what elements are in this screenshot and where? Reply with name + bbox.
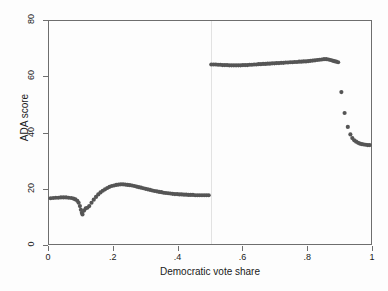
x-tick-label: .8 xyxy=(295,252,319,262)
scatter-point xyxy=(78,204,82,208)
x-tick-label: .2 xyxy=(101,252,125,262)
x-tick-mark xyxy=(307,246,308,251)
scatter-points-layer xyxy=(49,21,371,244)
x-tick-label: .6 xyxy=(230,252,254,262)
x-tick-mark xyxy=(372,246,373,251)
chart-figure: ADA score 020406080 0.2.4.6.81 Democrati… xyxy=(0,0,388,291)
x-tick-label: .4 xyxy=(166,252,190,262)
x-axis-label: Democratic vote share xyxy=(48,266,372,277)
y-tick-label: 60 xyxy=(26,66,36,84)
x-tick-mark xyxy=(178,246,179,251)
scatter-point xyxy=(348,132,352,136)
scatter-point xyxy=(207,193,211,197)
x-tick-mark xyxy=(113,246,114,251)
scatter-point xyxy=(368,143,372,147)
scatter-point xyxy=(339,90,343,94)
plot-area xyxy=(48,20,372,245)
x-tick-mark xyxy=(48,246,49,251)
x-tick-label: 0 xyxy=(36,252,60,262)
y-tick-label: 80 xyxy=(26,10,36,28)
scatter-point xyxy=(343,111,347,115)
x-tick-label: 1 xyxy=(360,252,384,262)
scatter-series xyxy=(209,57,372,147)
scatter-series xyxy=(49,182,211,216)
y-tick-label: 0 xyxy=(26,235,36,253)
y-tick-label: 20 xyxy=(26,179,36,197)
y-tick-label: 40 xyxy=(26,123,36,141)
y-axis-label: ADA score xyxy=(19,73,30,163)
x-tick-mark xyxy=(242,246,243,251)
scatter-point xyxy=(336,60,340,64)
scatter-point xyxy=(80,212,84,216)
scatter-point xyxy=(346,125,350,129)
